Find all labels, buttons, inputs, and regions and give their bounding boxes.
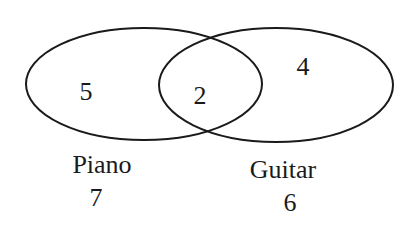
piano-only-count: 5 bbox=[80, 79, 93, 105]
intersection-count: 2 bbox=[194, 83, 207, 109]
venn-diagram bbox=[0, 0, 413, 235]
piano-set-ellipse bbox=[26, 28, 262, 140]
piano-total: 7 bbox=[90, 185, 103, 211]
piano-label: Piano bbox=[72, 152, 131, 178]
guitar-total: 6 bbox=[284, 190, 297, 216]
guitar-only-count: 4 bbox=[297, 54, 310, 80]
guitar-label: Guitar bbox=[250, 157, 316, 183]
